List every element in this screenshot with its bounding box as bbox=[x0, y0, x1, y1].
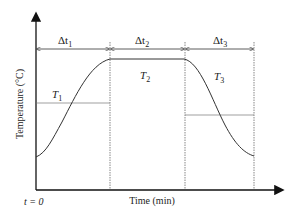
origin-label: t = 0 bbox=[24, 196, 44, 207]
t3-label: T3 bbox=[214, 70, 224, 85]
y-axis-label: Temperature (°C) bbox=[14, 69, 26, 139]
t1-label: T1 bbox=[52, 88, 62, 103]
delta-t2-label: Δt2 bbox=[135, 34, 149, 49]
temperature-profile-diagram: Δt1 Δt2 Δt3 T1 T2 T3 Temperature (°C) Ti… bbox=[0, 0, 297, 214]
delta-t1-label: Δt1 bbox=[58, 34, 72, 49]
t2-label: T2 bbox=[140, 69, 150, 84]
delta-t3-label: Δt3 bbox=[213, 34, 227, 49]
x-axis-label: Time (min) bbox=[129, 195, 174, 207]
